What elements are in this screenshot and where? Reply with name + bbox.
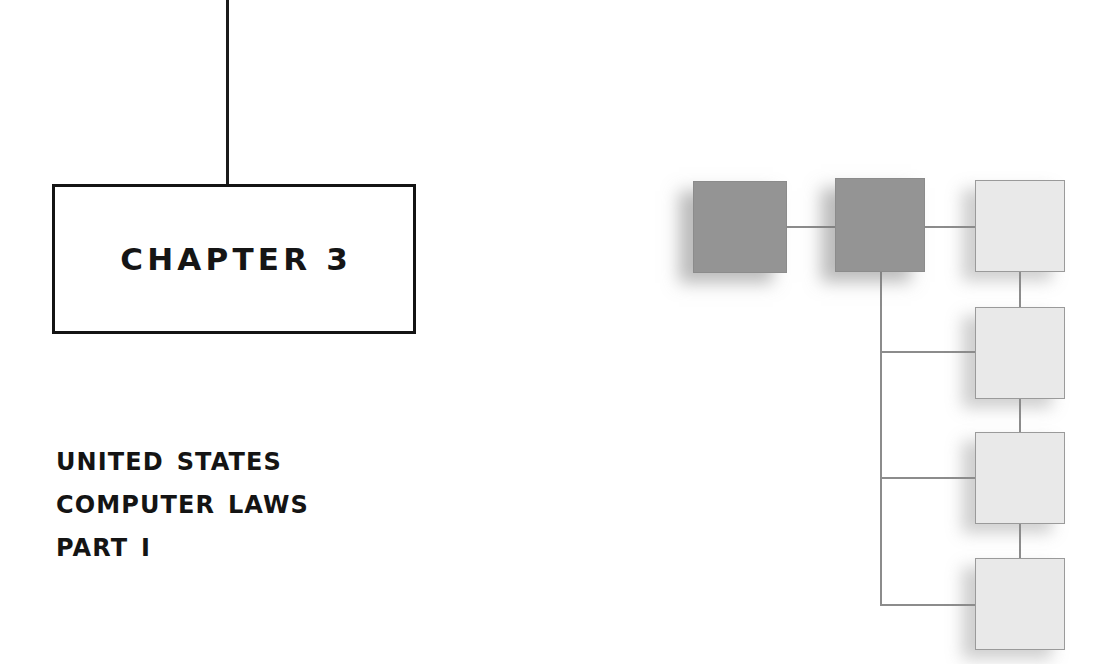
diagram-node-leaf-1 (975, 180, 1065, 272)
page-root: CHAPTER 3 United States Computer Laws Pa… (0, 0, 1119, 664)
diagram-node-leaf-2 (975, 307, 1065, 399)
diagram-node-leaf-4 (975, 558, 1065, 650)
diagram-edge-leaf2-to-leaf3 (1019, 398, 1021, 433)
diagram-edge-root-to-branch (787, 226, 835, 228)
diagram-edge-leaf3-to-leaf4 (1019, 523, 1021, 559)
diagram-edge-trunk-to-leaf4 (880, 604, 976, 606)
diagram-edge-trunk-to-leaf3 (880, 477, 976, 479)
diagram-edge-branch-to-leaf1 (925, 226, 975, 228)
diagram-edge-trunk (880, 272, 882, 606)
hierarchy-diagram (0, 0, 1119, 664)
diagram-edge-trunk-to-leaf2 (880, 351, 976, 353)
diagram-node-leaf-3 (975, 432, 1065, 524)
diagram-node-branch (835, 178, 925, 272)
diagram-node-root (693, 181, 787, 273)
diagram-edge-leaf1-to-leaf2 (1019, 272, 1021, 308)
